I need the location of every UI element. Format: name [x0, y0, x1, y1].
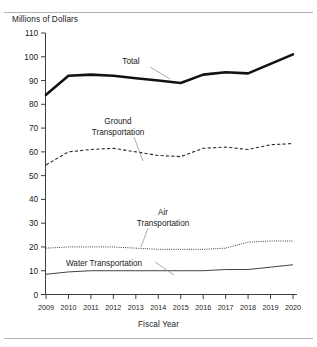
x-tick-label: 2009: [38, 303, 54, 312]
x-tick-label: 2011: [83, 303, 98, 312]
bottom-divider: [4, 338, 313, 339]
y-tick-label: 100: [24, 53, 38, 62]
series-label-water: Water Transportation: [66, 259, 143, 268]
x-tick-label: 2012: [105, 303, 121, 312]
y-tick-label: 60: [29, 148, 39, 157]
x-tick-label: 2018: [240, 303, 256, 312]
x-axis-title: Fiscal Year: [0, 320, 317, 329]
leader-line-ground: [134, 137, 143, 161]
y-tick-label: 0: [33, 291, 38, 300]
x-tick-label: 2020: [285, 303, 301, 312]
chart-plot-area: 0102030405060708090100110 20092010201120…: [0, 0, 317, 347]
y-tick-label: 80: [29, 100, 39, 109]
y-tick-label: 70: [29, 124, 39, 133]
leader-line-air: [141, 228, 148, 247]
x-tick-label: 2015: [173, 303, 189, 312]
x-tick-label: 2016: [195, 303, 211, 312]
series-label-air-line2: Transportation: [137, 219, 190, 228]
x-tick-label: 2019: [263, 303, 279, 312]
chart-figure: Millions of Dollars 01020304050607080901…: [0, 0, 317, 347]
leader-line-water: [155, 262, 174, 275]
y-tick-label: 90: [29, 77, 39, 86]
leader-line-total: [150, 67, 170, 79]
x-tick-label: 2014: [150, 303, 166, 312]
y-tick-label: 10: [29, 267, 39, 276]
series-label-ground-line2: Transportation: [92, 128, 145, 137]
x-tick-label: 2013: [128, 303, 144, 312]
x-axis-ticks: 2009201020112012201320142015201620172018…: [38, 295, 301, 313]
x-tick-label: 2017: [218, 303, 234, 312]
series-line-ground-transportation: [46, 144, 293, 165]
series-line-total: [46, 54, 293, 94]
y-tick-label: 20: [29, 243, 39, 252]
series-line-air-transportation: [46, 241, 293, 249]
series-label-total: Total: [122, 57, 139, 66]
y-tick-label: 30: [29, 219, 39, 228]
series-label-ground-line1: Ground: [104, 117, 132, 126]
series-label-air-line1: Air: [158, 208, 168, 217]
y-tick-label: 40: [29, 195, 39, 204]
x-tick-label: 2010: [60, 303, 76, 312]
y-axis-ticks: 0102030405060708090100110: [24, 29, 45, 300]
y-tick-label: 50: [29, 172, 39, 181]
y-tick-label: 110: [25, 29, 38, 38]
